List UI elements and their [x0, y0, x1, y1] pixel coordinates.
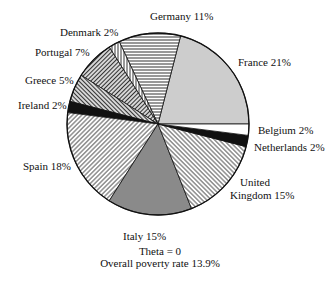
pie-slices: [67, 33, 249, 215]
poverty-pie-chart: Germany 11% Denmark 2% Portugal 7% Greec…: [0, 0, 336, 283]
label-uk-line1: United: [240, 176, 270, 188]
label-ireland: Ireland 2%: [18, 99, 67, 111]
label-netherlands: Netherlands 2%: [254, 141, 325, 153]
label-france: France 21%: [238, 56, 291, 68]
label-germany: Germany 11%: [150, 10, 213, 22]
label-italy: Italy 15%: [123, 230, 166, 242]
label-uk-line2: Kingdom 15%: [230, 189, 294, 201]
overall-rate-annotation: Overall poverty rate 13.9%: [100, 257, 220, 269]
label-denmark: Denmark 2%: [60, 26, 118, 38]
label-portugal: Portugal 7%: [35, 46, 90, 58]
label-belgium: Belgium 2%: [258, 124, 313, 136]
label-greece: Greece 5%: [25, 74, 74, 86]
label-spain: Spain 18%: [23, 160, 71, 172]
theta-annotation: Theta = 0: [139, 245, 182, 257]
